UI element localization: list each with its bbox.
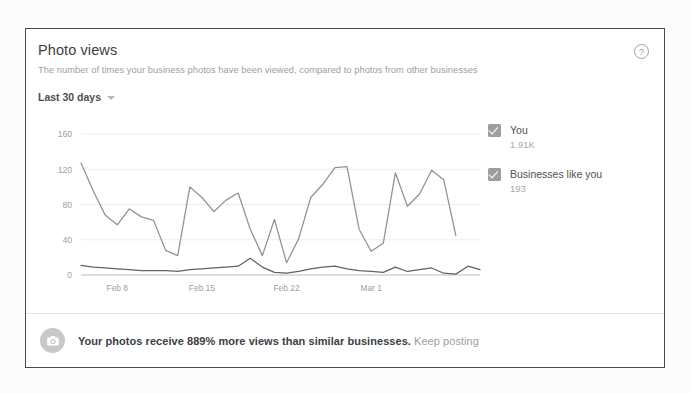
svg-text:Mar 1: Mar 1: [360, 283, 382, 293]
checkbox-you[interactable]: [488, 124, 501, 137]
legend-value-businesses-like-you: 193: [510, 183, 602, 196]
chevron-down-icon: [107, 96, 115, 100]
insight-footer: Your photos receive 889% more views than…: [26, 313, 664, 367]
svg-text:40: 40: [62, 235, 72, 245]
svg-text:80: 80: [62, 200, 72, 210]
date-range-label: Last 30 days: [38, 91, 101, 103]
legend-item-businesses-like-you[interactable]: Businesses like you 193: [488, 167, 658, 196]
camera-icon: [40, 328, 65, 353]
legend-you-text: You 1.91K: [510, 123, 535, 152]
svg-text:Feb 15: Feb 15: [189, 283, 215, 293]
svg-text:Feb 22: Feb 22: [274, 283, 300, 293]
legend-label-businesses-like-you: Businesses like you: [510, 167, 602, 181]
card-subtitle: The number of times your business photos…: [38, 65, 478, 75]
help-circle-icon[interactable]: ?: [633, 43, 650, 60]
svg-text:?: ?: [639, 46, 644, 57]
insight-message-bold: Your photos receive 889% more views than…: [78, 335, 411, 347]
chart-legend: You 1.91K Businesses like you 193: [488, 123, 658, 211]
legend-item-you[interactable]: You 1.91K: [488, 123, 658, 152]
svg-text:160: 160: [58, 129, 73, 139]
date-range-selector[interactable]: Last 30 days: [38, 91, 115, 103]
svg-text:Feb 8: Feb 8: [107, 283, 129, 293]
legend-businesses-text: Businesses like you 193: [510, 167, 602, 196]
keep-posting-link[interactable]: Keep posting: [414, 335, 479, 347]
line-chart-svg: 04080120160Feb 8Feb 15Feb 22Mar 1: [34, 117, 484, 297]
insight-message: Your photos receive 889% more views than…: [78, 335, 479, 347]
photo-views-chart: 04080120160Feb 8Feb 15Feb 22Mar 1: [34, 117, 484, 297]
page-title: Photo views: [38, 42, 117, 58]
svg-text:120: 120: [58, 165, 73, 175]
screenshot-root: Photo views The number of times your bus…: [0, 0, 690, 393]
photo-views-card: Photo views The number of times your bus…: [25, 28, 665, 368]
legend-label-you: You: [510, 123, 535, 137]
card-body: Photo views The number of times your bus…: [26, 29, 664, 313]
legend-value-you: 1.91K: [510, 139, 535, 152]
svg-text:0: 0: [67, 270, 72, 280]
checkbox-businesses-like-you[interactable]: [488, 168, 501, 181]
